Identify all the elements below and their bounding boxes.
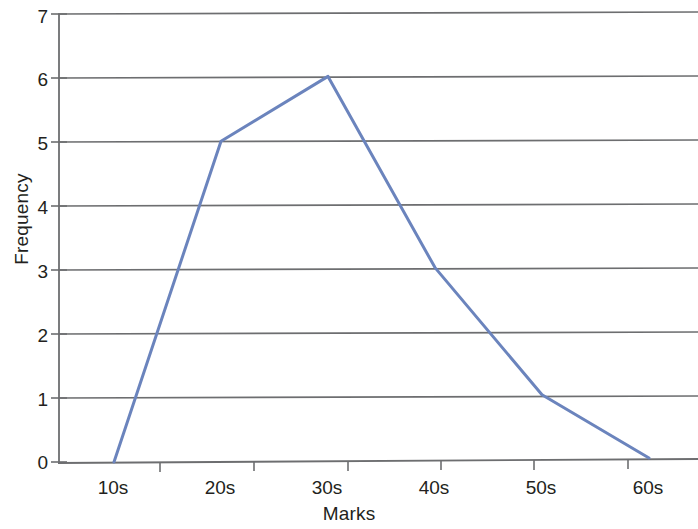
plot-area: [0, 0, 698, 529]
gridline-2: [58, 332, 698, 334]
gridline-3: [58, 268, 698, 270]
gridline-5: [58, 140, 698, 142]
gridline-4: [58, 204, 698, 206]
x-axis-line: [58, 459, 698, 463]
frequency-polygon-chart: Frequency 7 6 5 4 3 2 1 0 10s 20s 30s 40…: [0, 0, 698, 529]
gridline-7: [58, 12, 698, 14]
gridline-1: [58, 396, 698, 398]
gridline-6: [58, 76, 698, 78]
